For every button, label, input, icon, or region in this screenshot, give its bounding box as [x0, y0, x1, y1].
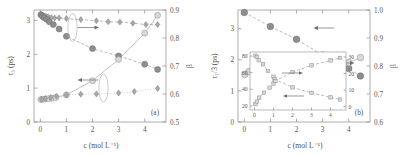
panel-a-ytick-right-3: 0.8: [170, 35, 179, 43]
panel-a-label: (a): [151, 108, 160, 117]
inset-xtick-1: 1: [272, 112, 275, 118]
panel-b-yaxis-right-label: β: [389, 64, 398, 68]
inset-xtick-3: 3: [310, 112, 313, 118]
panel-b-ytick-left-1: 1: [230, 88, 234, 96]
inset-xtick-0: 0: [253, 112, 256, 118]
inset-ytick-left-0: 20: [242, 103, 248, 109]
panel-a-ytick-left-3: 3: [26, 17, 30, 25]
panel-b-inset: 0 1 2 3 4 20 40 60 80: [242, 52, 354, 118]
figure-container: 0 1 2 3 4 0 1 2 3: [0, 0, 408, 154]
panel-a-ytick-left-2: 2: [26, 51, 30, 59]
panel-a-ytick-right-1: 0.6: [170, 91, 179, 99]
inset-ytick-right-3: 30: [349, 54, 355, 60]
panel-b-yright-ticks: 0.6 0.7 0.8 0.9 1.0: [367, 7, 384, 127]
panel-a-ytick-right-0: 0.5: [170, 119, 179, 127]
panel-a-series-circles-upper: [38, 12, 161, 73]
inset-ytick-left-3: 80: [242, 53, 248, 59]
panel-b-ytick-left-2: 2: [230, 56, 234, 64]
panel-a-ytick-left-0: 0: [26, 119, 30, 127]
panel-b-ytick-left-0: 0: [230, 119, 234, 127]
panel-b-xtick-1: 1: [269, 126, 273, 134]
panel-b-xtick-3: 3: [321, 126, 325, 134]
inset-xtick-2: 2: [291, 112, 294, 118]
panel-b-svg: 0 1 2 3 4 0 1 2 3: [204, 0, 408, 154]
panel-a-xtick-0: 0: [39, 126, 43, 134]
panel-a-xtick-2: 2: [91, 126, 95, 134]
panel-b-xtick-2: 2: [295, 126, 299, 134]
panel-a-xtick-1: 1: [65, 126, 69, 134]
panel-a: 0 1 2 3 4 0 1 2 3: [0, 0, 204, 154]
panel-b: 0 1 2 3 4 0 1 2 3: [204, 0, 408, 154]
panel-a-yaxis-right-label: β: [185, 64, 194, 68]
panel-b-ytick-left-3: 3: [230, 25, 234, 33]
panel-a-yaxis-left-label: τ₃ (ps): [6, 56, 15, 76]
panel-a-svg: 0 1 2 3 4 0 1 2 3: [0, 0, 204, 154]
panel-b-yaxis-left-label: τ₁/3 (ps): [210, 53, 219, 79]
panel-b-ytick-right-3: 0.9: [374, 35, 383, 43]
panel-a-xtick-3: 3: [117, 126, 121, 134]
panel-b-ytick-right-2: 0.8: [374, 63, 383, 71]
panel-b-annotation-upper-arrow: [314, 26, 335, 30]
inset-ytick-right-2: 20: [349, 71, 355, 77]
panel-b-ytick-right-0: 0.6: [374, 119, 383, 127]
panel-b-label: (b): [355, 108, 364, 117]
inset-ytick-right-1: 10: [349, 87, 355, 93]
panel-b-xaxis-label: c (mol L⁻¹): [288, 141, 323, 150]
panel-b-xtick-4: 4: [347, 126, 351, 134]
panel-a-series-beta-diamonds: [39, 11, 160, 27]
inset-ytick-right-0: 0: [349, 104, 352, 110]
inset-xtick-4: 4: [329, 112, 332, 118]
panel-a-ytick-left-1: 1: [26, 85, 30, 93]
panel-b-ytick-right-4: 1.0: [374, 7, 383, 15]
panel-a-yleft-ticks: 0 1 2 3: [26, 17, 37, 127]
panel-b-ytick-right-1: 0.7: [374, 91, 383, 99]
panel-a-xaxis-label: c (mol L⁻¹): [84, 141, 119, 150]
panel-a-ytick-right-2: 0.7: [170, 63, 179, 71]
panel-a-xtick-4: 4: [143, 126, 147, 134]
panel-a-annotation-upper: [68, 14, 99, 42]
inset-ytick-left-2: 60: [242, 70, 248, 76]
panel-a-x-ticks: 0 1 2 3 4: [39, 10, 147, 134]
panel-a-ytick-right-4: 0.9: [170, 7, 179, 15]
panel-b-yleft-ticks: 0 1 2 3: [230, 25, 241, 126]
panel-b-xtick-0: 0: [243, 126, 247, 134]
inset-ytick-left-1: 40: [242, 86, 248, 92]
panel-a-yright-ticks: 0.5 0.6 0.7 0.8 0.9: [163, 7, 180, 127]
